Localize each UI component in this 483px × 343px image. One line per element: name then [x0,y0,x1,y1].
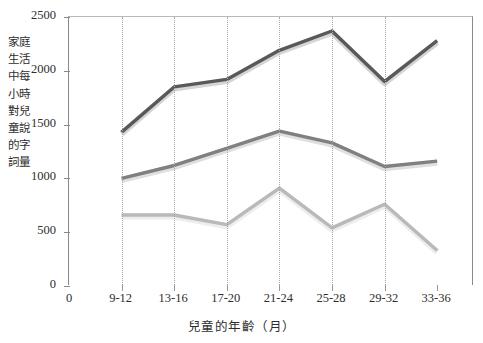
y-tick-label: 1000 [10,169,56,184]
gridline [227,17,228,285]
x-tick-label: 9-12 [109,291,132,306]
x-tick-label: 13-16 [159,291,188,306]
y-tick-mark [64,232,70,233]
y-tick-label: 500 [10,223,56,238]
y-tick-label: 0 [10,277,56,292]
plot-inner [69,17,472,285]
gridline [385,17,386,285]
gridline [279,17,280,285]
x-tick-label: 17-20 [211,291,240,306]
y-tick-mark [64,286,70,287]
x-tick-label: 21-24 [264,291,293,306]
x-axis-tick-labels: 9-1213-1617-2021-2425-2829-3233-36 [0,291,483,311]
y-tick-label: 2000 [10,62,56,77]
line-chart: 家庭生活中每小時對兒童說的字詞量 05001000150020002500 0 … [0,0,483,343]
y-tick-mark [64,125,70,126]
y-tick-mark [64,71,70,72]
gridline [332,17,333,285]
plot-area [68,16,473,285]
gridline [122,17,123,285]
x-tick-label: 29-32 [369,291,398,306]
y-tick-label: 2500 [10,8,56,23]
x-tick-label: 33-36 [422,291,451,306]
y-tick-label: 1500 [10,116,56,131]
y-tick-mark [64,178,70,179]
x-tick-label: 25-28 [316,291,345,306]
x-axis-title: 兒童的年齡（月） [0,316,483,335]
series-layer [69,17,474,286]
y-tick-mark [64,17,70,18]
gridline [174,17,175,285]
